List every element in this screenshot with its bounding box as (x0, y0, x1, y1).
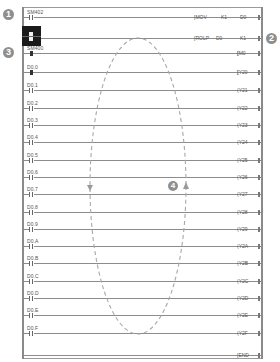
callout-marker-1: 1 (3, 9, 14, 20)
arrow-down-icon (87, 185, 93, 191)
callout-marker-3: 3 (3, 47, 14, 58)
arrow-up-icon (183, 182, 189, 189)
ladder-diagram: SM402[MOVK1D0[ROLPD0K1SM400[M0D0.0[Y20D0… (0, 0, 280, 362)
callout-marker-2: 2 (266, 33, 277, 44)
rotation-annotation (0, 0, 280, 362)
callout-marker-4: 4 (168, 181, 178, 191)
